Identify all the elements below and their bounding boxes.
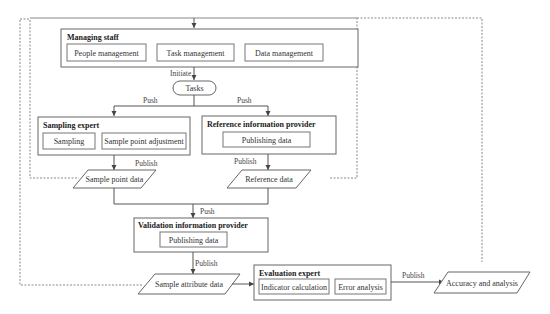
- reference-provider-title: Reference information provider: [207, 120, 316, 129]
- validation-provider-group: Validation information provider Publishi…: [134, 218, 268, 252]
- accuracy-analysis-node: Accuracy and analysis: [434, 272, 530, 293]
- sampling-expert-group: Sampling expert Sampling Sample point ad…: [38, 117, 190, 155]
- error-analysis-label: Error analysis: [338, 283, 383, 292]
- tasks-label: Tasks: [185, 84, 203, 93]
- managing-staff-title: Managing staff: [67, 33, 119, 42]
- sample-point-data-label: Sample point data: [86, 175, 144, 184]
- reference-provider-group: Reference information provider Publishin…: [202, 116, 336, 154]
- sample-attribute-data-node: Sample attribute data: [138, 274, 240, 294]
- tasks-terminal: Tasks: [173, 81, 216, 95]
- evaluation-expert-title: Evaluation expert: [259, 269, 320, 278]
- reference-data-node: Reference data: [227, 170, 311, 188]
- feedback-outer-right-dashed: [357, 18, 482, 262]
- data-management-label: Data management: [255, 49, 314, 58]
- publish-reference-label: Publish: [234, 157, 257, 166]
- push-validation-label: Push: [200, 207, 215, 216]
- merge-line: [114, 188, 268, 204]
- publish-evaluation-label: Publish: [402, 271, 425, 280]
- reference-publishing-data-label: Publishing data: [242, 136, 292, 145]
- sample-point-adjustment-label: Sample point adjustment: [104, 137, 184, 146]
- publish-validation-label: Publish: [195, 259, 218, 268]
- sampling-label: Sampling: [54, 137, 85, 146]
- reference-data-label: Reference data: [245, 175, 293, 184]
- arrow-push-reference: [194, 106, 268, 116]
- validation-provider-title: Validation information provider: [138, 221, 248, 230]
- evaluation-expert-group: Evaluation expert Indicator calculation …: [254, 265, 391, 300]
- task-management-label: Task management: [167, 49, 226, 58]
- sampling-expert-title: Sampling expert: [43, 121, 100, 130]
- people-management-label: People management: [74, 49, 139, 58]
- flowchart-diagram: Managing staff People management Task ma…: [0, 0, 550, 314]
- managing-staff-group: Managing staff People management Task ma…: [61, 29, 358, 67]
- validation-publishing-data-label: Publishing data: [169, 236, 219, 245]
- accuracy-analysis-label: Accuracy and analysis: [446, 279, 518, 288]
- indicator-calculation-label: Indicator calculation: [261, 283, 327, 292]
- push-left-label: Push: [143, 96, 158, 105]
- publish-sampling-label: Publish: [135, 159, 158, 168]
- sample-point-data-node: Sample point data: [73, 170, 156, 188]
- sample-attribute-data-label: Sample attribute data: [155, 280, 223, 289]
- push-right-label: Push: [237, 96, 252, 105]
- initiate-label: Initiate: [170, 69, 192, 78]
